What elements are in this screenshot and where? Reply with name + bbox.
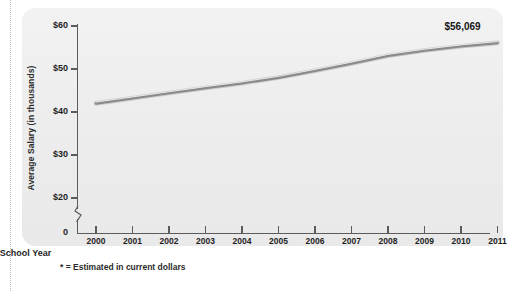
chart-figure: Average Salary (in thousands) $20$30$40$…: [0, 0, 525, 291]
chart-footnote: * = Estimated in current dollars: [60, 262, 185, 272]
x-axis-title-text: School Year: [0, 248, 51, 258]
endpoint-value-label: $56,069: [445, 21, 481, 32]
x-axis-title: School Year: [0, 248, 525, 258]
